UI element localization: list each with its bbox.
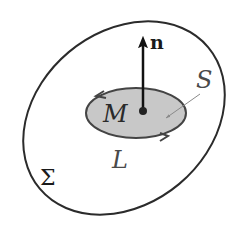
label-point-m: M [102,100,129,128]
diagram-canvas: n M S L Σ [0,0,244,230]
label-surface-s: S [196,66,212,94]
label-outer-sigma: Σ [40,165,56,190]
point-m-dot [139,107,147,115]
inner-surface-s [86,88,186,138]
label-normal-n: n [150,31,164,53]
label-contour-l: L [111,146,128,174]
contour-arrow-right-icon [160,133,168,141]
